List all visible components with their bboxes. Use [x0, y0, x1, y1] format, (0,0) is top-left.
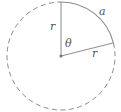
label-arc-a: a [99, 5, 106, 18]
center-point [59, 54, 62, 57]
label-radius-vertical: r [50, 20, 56, 33]
circle-diagram: a r θ r [0, 0, 121, 112]
label-angle-theta: θ [65, 37, 72, 50]
label-radius-slanted: r [92, 47, 98, 60]
